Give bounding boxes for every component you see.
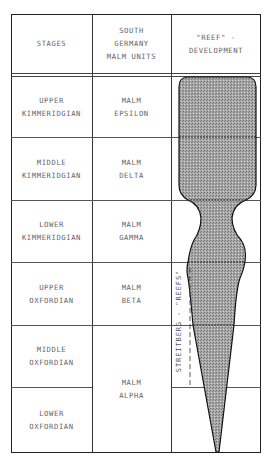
- reef-development-shape: [0, 0, 276, 457]
- streitberg-reefs-label: STREITBERG - "REEFS": [173, 256, 185, 386]
